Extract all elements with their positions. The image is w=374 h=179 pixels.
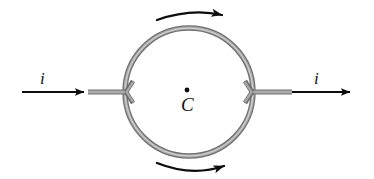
figure-canvas	[0, 0, 374, 179]
physics-figure-circular-current-loop: i i C	[0, 0, 374, 179]
clockwise-direction-arrow-bottom	[157, 163, 224, 171]
ring-inner-fill	[125, 28, 253, 156]
current-label-right: i	[314, 70, 319, 87]
current-loop-ring	[125, 28, 253, 156]
current-label-left: i	[40, 70, 45, 87]
center-point-dot-icon	[185, 88, 190, 93]
center-point-label: C	[181, 95, 194, 114]
clockwise-direction-arrow-top	[157, 12, 222, 20]
